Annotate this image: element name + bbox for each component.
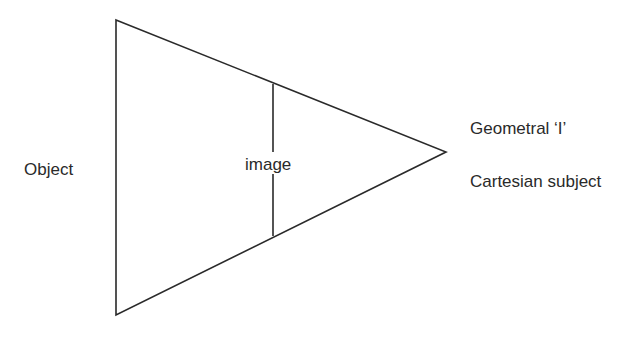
- image-label: image: [245, 156, 291, 173]
- cartesian-subject-label: Cartesian subject: [470, 173, 601, 190]
- object-label: Object: [24, 161, 73, 178]
- diagram-canvas: [0, 0, 642, 339]
- geometral-i-label: Geometral ‘I’: [470, 120, 566, 137]
